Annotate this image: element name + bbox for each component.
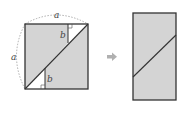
label-a-top: a [54,10,59,20]
transform-arrow-icon [107,53,117,62]
left-square-figure: a a b b [11,10,88,89]
label-b-top: b [60,30,66,40]
right-rectangle-figure [133,13,176,100]
label-b-bottom: b [47,74,53,84]
left-dimension-arc [17,24,26,89]
label-a-left: a [11,52,16,62]
diagram-canvas: a a b b [0,0,185,114]
